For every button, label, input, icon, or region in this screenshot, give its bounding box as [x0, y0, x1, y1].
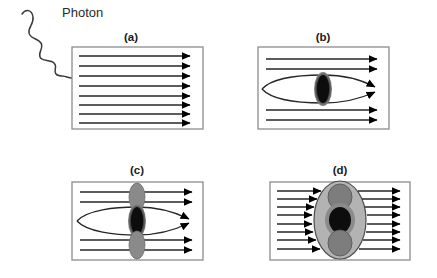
panel-c-label: (c)	[130, 164, 144, 176]
photon-label: Photon	[62, 5, 103, 20]
physics-diagram: Photon (a) (b)	[0, 0, 437, 278]
panel-a: (a)	[72, 31, 203, 129]
panel-b-label: (b)	[316, 31, 331, 43]
panel-a-box	[72, 47, 203, 129]
panel-d-ellipse-shell	[314, 181, 366, 259]
panel-c-ellipse-bottom	[129, 231, 145, 259]
panel-c: (c)	[72, 164, 203, 260]
panel-d-label: (d)	[333, 164, 348, 176]
panel-b: (b)	[258, 31, 389, 129]
panel-c-ellipses	[128, 183, 146, 259]
panel-a-label: (a)	[124, 31, 138, 43]
panel-d-inner-bottom	[328, 230, 352, 256]
panel-d: (d)	[270, 164, 410, 260]
panel-b-ellipse-core	[314, 72, 332, 106]
